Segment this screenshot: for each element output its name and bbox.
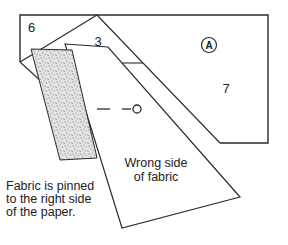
section-7-label: 7: [222, 81, 229, 96]
caption-line1: Fabric is pinned: [6, 179, 94, 193]
caption-line2: to the right side: [6, 192, 92, 206]
fabric-label-line2: of fabric: [134, 170, 178, 184]
unit-badge-label: A: [205, 40, 212, 51]
fabric-label-line1: Wrong side: [125, 156, 188, 170]
pin-head: [133, 105, 141, 113]
diagram-canvas: 6 3 7 A Wrong side of fabric Fabric is p…: [0, 0, 288, 245]
paper-piecing-diagram: 6 3 7 A Wrong side of fabric Fabric is p…: [0, 0, 288, 245]
section-6-label: 6: [28, 20, 35, 35]
caption-line3: of the paper.: [6, 205, 76, 219]
caption: Fabric is pinned to the right side of th…: [6, 179, 94, 219]
